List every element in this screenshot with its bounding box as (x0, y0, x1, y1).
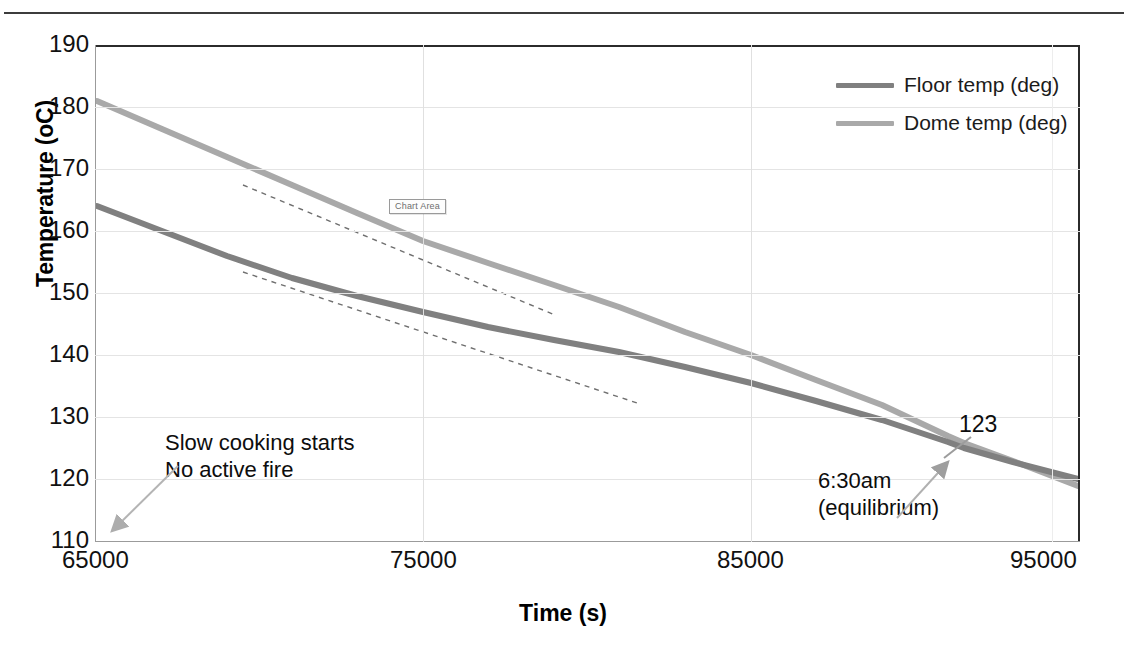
y-tick-label-180: 180 (23, 94, 89, 118)
y-tick-label-130: 130 (23, 404, 89, 428)
y-tick-label-170: 170 (23, 156, 89, 180)
chart-figure: Temperature (oC) 190 180 170 160 150 140… (0, 0, 1126, 654)
gridline-170 (95, 169, 1080, 170)
annotation-slow-cooking-line2: No active fire (165, 457, 355, 484)
x-tick-label-75000: 75000 (390, 546, 457, 574)
y-tick-label-150: 150 (23, 280, 89, 304)
legend-swatch-floor-temp (836, 83, 894, 88)
plot-bottom-axis (95, 541, 1080, 542)
legend-item-dome-temp[interactable]: Dome temp (deg) (836, 104, 1076, 142)
x-tick-label-85000: 85000 (717, 546, 784, 574)
y-tick-label-140: 140 (23, 342, 89, 366)
legend-swatch-dome-temp (836, 121, 894, 126)
gridline-75000 (423, 45, 424, 542)
legend: Floor temp (deg) Dome temp (deg) (836, 66, 1076, 142)
gridline-140 (95, 355, 1080, 356)
scan-artifact-text (430, 0, 730, 10)
annotation-equilibrium: 6:30am (equilibrium) (818, 468, 939, 522)
x-axis-title: Time (s) (0, 600, 1126, 627)
chart-area-tooltip: Chart Area (389, 199, 446, 214)
gridline-130 (95, 417, 1080, 418)
y-tick-label-190: 190 (23, 32, 89, 56)
annotation-equilibrium-line2: (equilibrium) (818, 495, 939, 522)
gridline-85000 (751, 45, 752, 542)
legend-label-floor-temp: Floor temp (deg) (904, 73, 1059, 97)
legend-label-dome-temp: Dome temp (deg) (904, 111, 1067, 135)
annotation-slow-cooking-line1: Slow cooking starts (165, 430, 355, 457)
y-tick-label-160: 160 (23, 218, 89, 242)
top-divider-rule (4, 12, 1124, 14)
annotation-equilibrium-value: 123 (959, 410, 997, 438)
plot-top-border (95, 45, 1080, 47)
gridline-150 (95, 293, 1080, 294)
legend-item-floor-temp[interactable]: Floor temp (deg) (836, 66, 1076, 104)
x-tick-label-65000: 65000 (62, 546, 129, 574)
x-tick-label-95000: 95000 (1010, 546, 1077, 574)
gridline-160 (95, 231, 1080, 232)
annotation-equilibrium-line1: 6:30am (818, 468, 939, 495)
y-tick-label-120: 120 (23, 466, 89, 490)
annotation-slow-cooking: Slow cooking starts No active fire (165, 430, 355, 484)
